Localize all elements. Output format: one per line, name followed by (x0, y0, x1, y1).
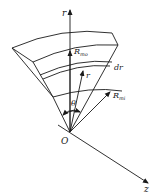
r-vector-label: r (86, 71, 91, 80)
z-axis (58, 125, 148, 183)
z-axis-label: z (143, 184, 149, 192)
dr-label: dr (114, 63, 124, 72)
theta-label: θ (71, 99, 76, 108)
r-inner-label: Rmi (112, 91, 126, 101)
sector-diagram: r z O θ r dr Rmo Rmi (0, 0, 161, 192)
origin-label: O (61, 136, 69, 146)
r-inner-vector (70, 92, 110, 132)
sector-outline (12, 31, 122, 132)
r-axis-label: r (62, 8, 67, 18)
r-outer-label: Rmo (73, 47, 88, 57)
